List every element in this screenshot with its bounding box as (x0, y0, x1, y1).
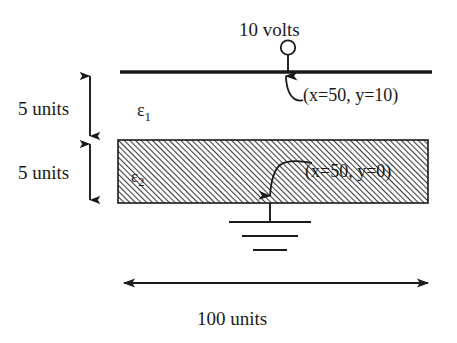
annotation-coord-bottom: (x=50, y=0) (305, 162, 391, 180)
region-lower-label: ε2 (131, 168, 144, 189)
dimension-label-width: 100 units (197, 309, 267, 328)
voltage-source-label: 10 volts (239, 20, 300, 39)
dimension-label-lower: 5 units (18, 163, 69, 182)
dimension-label-upper: 5 units (18, 99, 69, 118)
epsilon-symbol: ε (137, 100, 145, 120)
ground-symbol (229, 203, 311, 250)
annotation-coord-top: (x=50, y=10) (303, 86, 398, 104)
region-upper-label: ε1 (137, 101, 151, 124)
epsilon-subscript: 2 (138, 175, 144, 189)
voltage-source-terminal (281, 40, 295, 73)
epsilon-subscript: 1 (145, 109, 151, 124)
leader-line-coord-top (286, 76, 303, 101)
diagram-canvas: 10 volts (x=50, y=10) (x=50, y=0) ε1 ε2 … (0, 0, 457, 343)
terminal-circle-icon (281, 40, 295, 54)
